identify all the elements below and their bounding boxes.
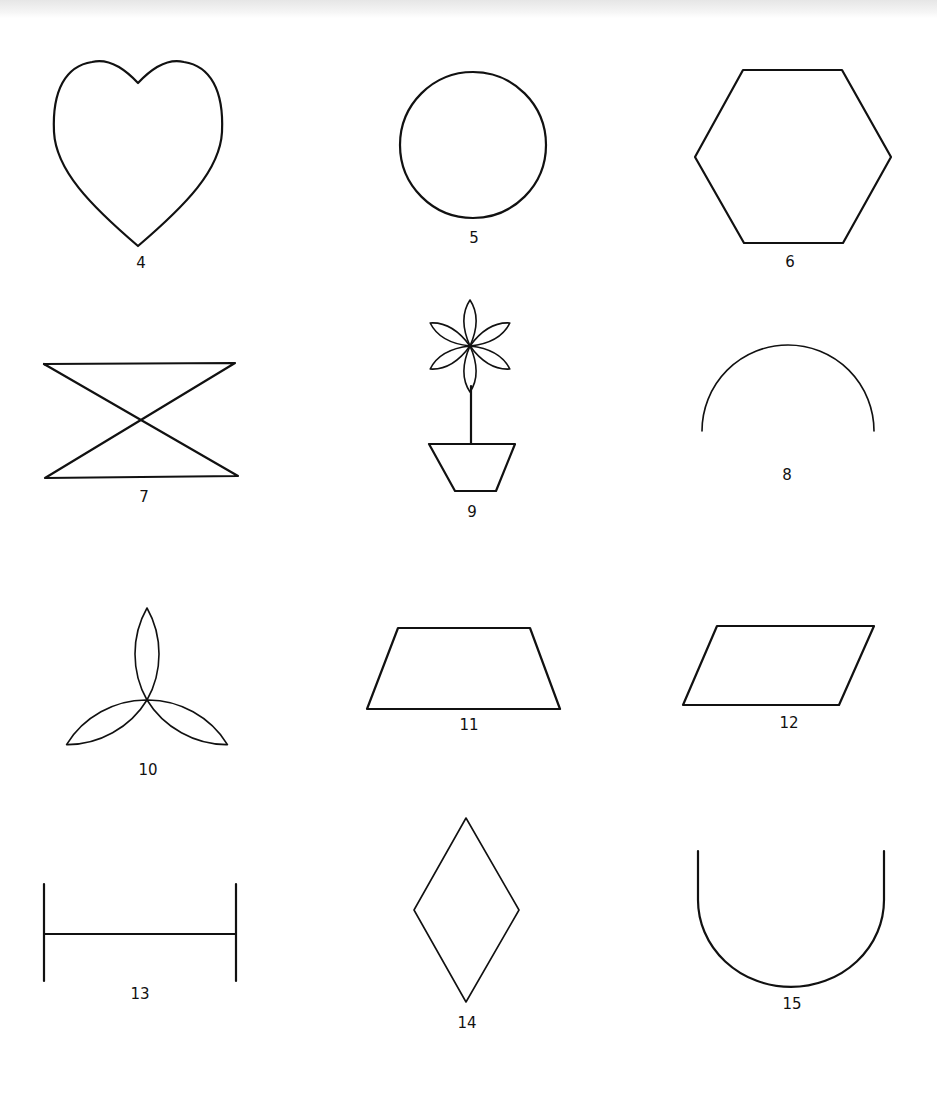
trefoil-figure [61, 608, 234, 755]
figure-label-5: 5 [469, 231, 479, 246]
diamond-figure [414, 818, 519, 1002]
parallelogram-figure [683, 626, 874, 705]
figure-label-13: 13 [130, 987, 149, 1002]
h-bar-figure [44, 884, 236, 981]
figure-label-6: 6 [785, 255, 795, 270]
circle-figure [400, 72, 546, 218]
semicircle-arc-figure [702, 345, 874, 431]
figure-label-15: 15 [782, 997, 801, 1012]
figure-label-11: 11 [459, 718, 478, 733]
figure-label-10: 10 [138, 763, 157, 778]
figure-label-9: 9 [467, 505, 477, 520]
hourglass-figure [44, 363, 238, 478]
heart-figure [54, 61, 222, 246]
flower-pot-figure [427, 300, 515, 491]
u-shape-figure [698, 851, 884, 987]
figure-sheet [0, 0, 937, 1099]
figure-label-7: 7 [139, 490, 149, 505]
figure-label-4: 4 [136, 256, 146, 271]
figure-label-8: 8 [782, 468, 792, 483]
figure-label-14: 14 [457, 1016, 476, 1031]
trapezoid-figure [367, 628, 560, 709]
figure-label-12: 12 [779, 716, 798, 731]
hexagon-figure [695, 70, 891, 243]
